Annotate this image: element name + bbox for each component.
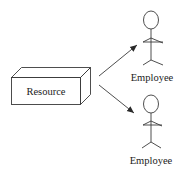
resource-label: Resource — [26, 86, 65, 97]
resource-box: Resource — [12, 68, 91, 105]
employee-actor-bottom: Employee — [130, 95, 173, 166]
resource-box-side — [81, 68, 91, 105]
diagram-canvas: Resource Employee Employee — [0, 0, 187, 177]
employee-label: Employee — [130, 155, 173, 166]
arrow-to-employee-bottom — [99, 85, 134, 113]
employee-actor-top: Employee — [131, 11, 174, 83]
stick-figure-icon — [143, 11, 163, 65]
resource-box-top — [12, 68, 91, 78]
employee-label: Employee — [131, 72, 174, 83]
stick-figure-icon — [142, 95, 162, 148]
